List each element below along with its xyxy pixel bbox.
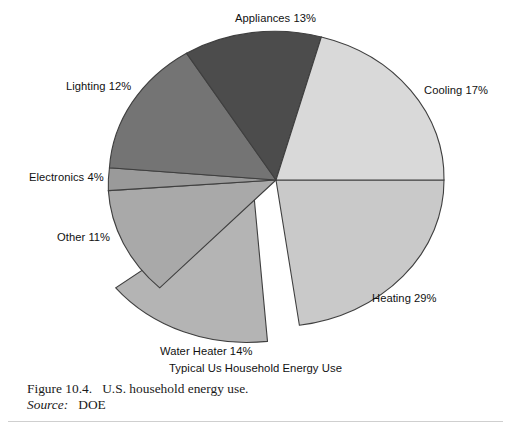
caption-figure-number: Figure 10.4. (27, 381, 92, 396)
page-divider (8, 421, 503, 422)
source-label: Source: (27, 397, 68, 412)
pie-label-cooling: Cooling 17% (424, 84, 488, 96)
figure-page: Appliances 13% Cooling 17% Lighting 12% … (0, 0, 511, 426)
chart-title: Typical Us Household Energy Use (0, 362, 511, 374)
pie-label-heating: Heating 29% (372, 292, 437, 304)
pie-label-water-heater: Water Heater 14% (160, 345, 252, 357)
pie-chart: Appliances 13% Cooling 17% Lighting 12% … (0, 0, 511, 370)
pie-label-electronics: Electronics 4% (29, 171, 104, 183)
figure-caption: Figure 10.4. U.S. household energy use. … (27, 381, 487, 413)
pie-label-other: Other 11% (57, 231, 110, 243)
source-value: DOE (78, 397, 106, 412)
caption-figure-text: U.S. household energy use. (102, 381, 248, 396)
pie-label-lighting: Lighting 12% (66, 80, 131, 92)
caption-line-primary: Figure 10.4. U.S. household energy use. (27, 381, 487, 397)
pie-chart-canvas (0, 0, 511, 370)
pie-label-appliances: Appliances 13% (235, 12, 316, 24)
caption-line-source: Source: DOE (27, 397, 487, 413)
